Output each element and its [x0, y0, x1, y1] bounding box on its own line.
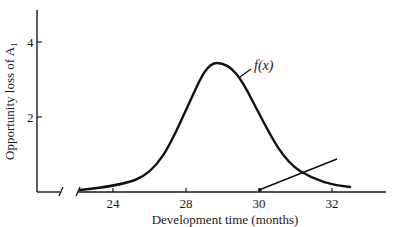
chart-figure: 4 2 24 28 30 32 f(x) Development time (m…	[0, 0, 411, 227]
svg-text:Opportunity loss of A1: Opportunity loss of A1	[2, 42, 19, 160]
x-axis-label: Development time (months)	[152, 212, 299, 227]
y-axis-label-main: Opportunity loss of A	[2, 46, 17, 160]
y-axis-label-subscript: 1	[9, 42, 19, 47]
curve-f-of-x	[80, 63, 350, 190]
curve-label: f(x)	[254, 58, 274, 74]
x-tick-label-32: 32	[326, 196, 339, 211]
y-tick-label-4: 4	[27, 35, 34, 50]
opportunity-loss-line	[259, 159, 337, 190]
y-tick-label-2: 2	[27, 110, 34, 125]
y-axis-label: Opportunity loss of A1	[2, 42, 19, 160]
x-tick-label-28: 28	[180, 196, 193, 211]
line-start-marker	[258, 188, 262, 192]
x-tick-label-30: 30	[253, 196, 266, 211]
curve-label-pointer	[240, 69, 251, 77]
x-tick-label-24: 24	[107, 196, 121, 211]
